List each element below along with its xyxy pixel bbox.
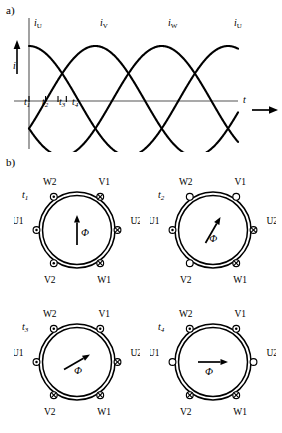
terminal-label-w2: W2 (43, 177, 57, 187)
curve-label-iu-1: iU (34, 17, 42, 30)
terminal-label-u2: U2 (131, 216, 141, 226)
flux-label: Φ (74, 365, 82, 376)
terminal-w2 (50, 193, 57, 200)
terminal-label-u2: U2 (131, 348, 141, 358)
terminal-v1 (97, 193, 104, 200)
curve-label-iv: iV (100, 17, 108, 30)
tick-label-t2: t2 (42, 96, 48, 109)
terminal-label-v2: V2 (180, 407, 192, 417)
tick-label-t1: t1 (24, 96, 30, 109)
terminal-w1 (233, 392, 240, 399)
curve-label-iu-2: iU (234, 17, 242, 30)
terminal-w2 (186, 193, 193, 200)
terminal-label-w2: W2 (179, 177, 193, 187)
terminal-label-u2: U2 (267, 216, 277, 226)
terminal-w1 (233, 260, 240, 267)
terminal-v2 (186, 392, 193, 399)
terminal-label-w1: W1 (233, 275, 247, 285)
terminal-u1 (169, 359, 176, 366)
terminal-label-w2: W2 (43, 309, 57, 319)
curve-label-iw: iW (168, 17, 177, 30)
flux-label: Φ (205, 366, 213, 377)
y-axis-label: i (13, 60, 16, 71)
terminal-label-w2: W2 (179, 309, 193, 319)
terminal-w1 (97, 392, 104, 399)
terminal-label-v1: V1 (98, 309, 110, 319)
stator-diagram-t1: t1W2V1U1U2V2W1Φ (14, 170, 140, 290)
stator-diagram-t2: t2W2V1U1U2V2W1Φ (150, 170, 276, 290)
x-axis-label: t (243, 94, 246, 105)
terminal-u1 (33, 359, 40, 366)
terminal-label-w1: W1 (233, 407, 247, 417)
terminal-w1 (97, 260, 104, 267)
flux-label: Φ (81, 227, 89, 238)
terminal-w2 (186, 325, 193, 332)
terminal-v1 (233, 325, 240, 332)
time-label: t1 (22, 189, 28, 202)
terminal-v1 (233, 193, 240, 200)
terminal-label-v1: V1 (234, 177, 246, 187)
waveform-chart (0, 12, 282, 152)
terminal-u2 (114, 227, 121, 234)
terminal-label-w1: W1 (97, 275, 111, 285)
flux-arrow (198, 359, 228, 365)
terminal-label-v1: V1 (234, 309, 246, 319)
stator-diagram-t4: t4W2V1U1U2V2W1Φ (150, 302, 276, 422)
terminal-label-u1: U1 (14, 216, 24, 226)
flux-arrow (74, 215, 80, 245)
flux-label: Φ (209, 233, 217, 244)
terminal-label-w1: W1 (97, 407, 111, 417)
terminal-v2 (186, 260, 193, 267)
terminal-u2 (114, 359, 121, 366)
stator-diagram-t3: t3W2V1U1U2V2W1Φ (14, 302, 140, 422)
time-label: t2 (158, 189, 165, 202)
time-label: t4 (158, 321, 165, 334)
tick-label-t4: t4 (72, 96, 78, 109)
terminal-label-u1: U1 (150, 216, 160, 226)
terminal-label-v1: V1 (98, 177, 110, 187)
terminal-u2 (250, 359, 257, 366)
terminal-w2 (50, 325, 57, 332)
terminal-u1 (169, 227, 176, 234)
terminal-label-u2: U2 (267, 348, 277, 358)
terminal-u1 (33, 227, 40, 234)
terminal-v2 (50, 260, 57, 267)
terminal-label-u1: U1 (14, 348, 24, 358)
terminal-label-v2: V2 (180, 275, 192, 285)
terminal-label-u1: U1 (150, 348, 160, 358)
terminal-u2 (250, 227, 257, 234)
part-b-label: b) (6, 156, 15, 168)
terminal-v2 (50, 392, 57, 399)
tick-label-t3: t3 (59, 96, 65, 109)
terminal-label-v2: V2 (44, 275, 56, 285)
waveform-svg (0, 12, 282, 152)
time-label: t3 (22, 321, 29, 334)
terminal-v1 (97, 325, 104, 332)
terminal-label-v2: V2 (44, 407, 56, 417)
